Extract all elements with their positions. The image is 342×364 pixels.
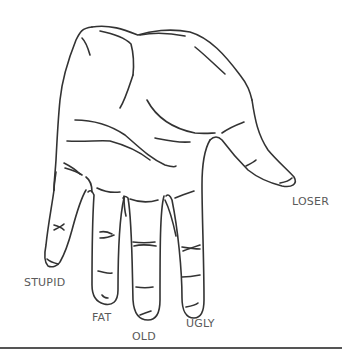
label-pinky: STUPID bbox=[24, 277, 65, 288]
label-thumb: LOSER bbox=[292, 196, 329, 207]
label-middle: OLD bbox=[132, 331, 156, 342]
label-index: UGLY bbox=[186, 318, 215, 329]
hand-drawing-icon bbox=[0, 0, 342, 364]
label-ring: FAT bbox=[92, 312, 111, 323]
hand-illustration bbox=[0, 0, 342, 364]
bottom-divider bbox=[0, 347, 342, 349]
